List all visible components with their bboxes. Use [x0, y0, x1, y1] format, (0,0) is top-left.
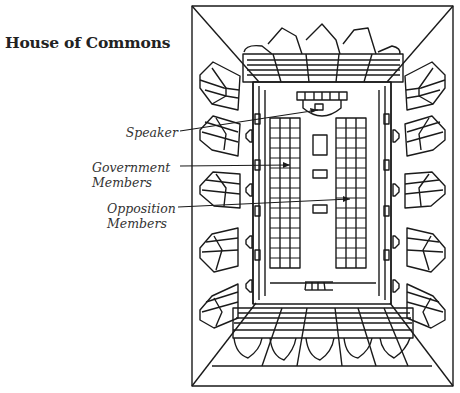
government-pointer	[180, 165, 290, 166]
right-side-galleries	[393, 62, 445, 328]
house-of-commons-floorplan	[0, 0, 460, 393]
left-side-galleries	[200, 62, 252, 328]
opposition-benches	[336, 118, 366, 268]
outer-frame	[192, 6, 453, 386]
central-table	[313, 135, 327, 213]
opposition-pointer	[178, 199, 350, 207]
government-benches	[270, 118, 300, 268]
leader-lines	[178, 110, 350, 207]
bar-of-house	[270, 282, 376, 290]
top-gallery	[243, 24, 403, 82]
